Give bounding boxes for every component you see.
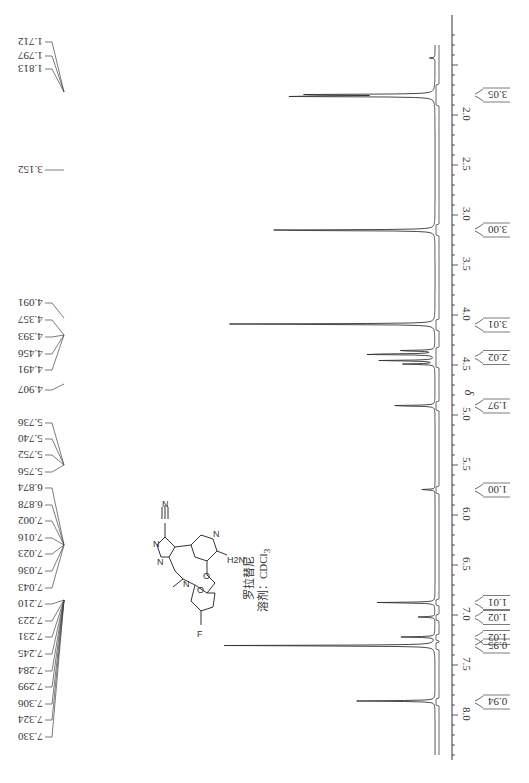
atom-label: N xyxy=(213,529,220,539)
peak-shift-label: 4.907 xyxy=(18,384,43,395)
peak-shift-label: 1.813 xyxy=(18,63,43,74)
integral-value: 3.00 xyxy=(488,224,507,235)
nmr-spectrum-plot: NNNNNOOFH2N xyxy=(0,0,529,783)
integral-bracket xyxy=(475,89,483,101)
peak-shift-label: 3.152 xyxy=(18,164,43,175)
axis-tick-label: 6.5 xyxy=(461,557,472,571)
peak-leader-line xyxy=(45,545,64,554)
atom-label: O xyxy=(197,585,204,595)
peak-leader-line xyxy=(45,545,64,571)
integral-value: 0.95 xyxy=(488,640,507,651)
integral-bracket xyxy=(475,632,483,644)
peak-shift-label: 7.210 xyxy=(18,598,43,609)
integral-value: 0.94 xyxy=(488,696,507,707)
peak-shift-label: 4.491 xyxy=(18,364,43,375)
peak-shift-label: 6.878 xyxy=(18,499,43,510)
peak-leader-line xyxy=(45,303,64,318)
integral-bracket xyxy=(475,640,483,652)
atom-label: O xyxy=(203,571,210,581)
atom-label: F xyxy=(197,629,203,639)
peak-shift-label: 4.091 xyxy=(18,297,43,308)
peak-shift-label: 7.231 xyxy=(18,631,43,642)
axis-tick-label: 2.0 xyxy=(461,107,472,121)
axis-tick-label: 5.5 xyxy=(461,457,472,471)
axis-tick-label: 7.5 xyxy=(461,657,472,671)
peak-shift-label: 6.874 xyxy=(18,482,43,493)
peak-leader-line xyxy=(45,384,64,390)
spectrum-trace xyxy=(224,45,435,755)
peak-leader-line xyxy=(45,335,64,337)
integral-bracket xyxy=(475,400,483,412)
axis-tick-label: 4.5 xyxy=(461,357,472,371)
peak-shift-label: 4.393 xyxy=(18,331,43,342)
peak-shift-label: 5.736 xyxy=(18,417,43,428)
axis-tick-label: 6.0 xyxy=(461,507,472,521)
axis-tick-label: 5.0 xyxy=(461,407,472,421)
integral-value: 1.02 xyxy=(488,612,507,623)
axis-symbol: δ xyxy=(461,390,476,396)
peak-leader-line xyxy=(45,455,64,465)
axis-tick-label: 3.0 xyxy=(461,207,472,221)
integral-value: 2.02 xyxy=(488,352,507,363)
integral-trace xyxy=(436,45,439,755)
integral-bracket xyxy=(475,319,483,331)
peak-shift-label: 4.357 xyxy=(18,314,43,325)
peak-shift-label: 7.016 xyxy=(18,532,43,543)
peak-shift-label: 7.036 xyxy=(18,565,43,576)
integral-value: 3.01 xyxy=(488,319,507,330)
peak-leader-line xyxy=(45,465,64,472)
peak-shift-label: 7.245 xyxy=(18,648,43,659)
atom-label: N xyxy=(153,539,160,549)
peak-shift-label: 7.299 xyxy=(18,681,43,692)
peak-shift-label: 7.002 xyxy=(18,515,43,526)
integral-value: 1.00 xyxy=(488,484,507,495)
axis-tick-label: 3.5 xyxy=(461,257,472,271)
axis-tick-label: 7.0 xyxy=(461,607,472,621)
atom-label: N xyxy=(183,579,190,589)
atom-label: N xyxy=(162,499,169,509)
peak-shift-label: 1.797 xyxy=(18,50,43,61)
axis-tick-label: 8.0 xyxy=(461,707,472,721)
axis-tick-label: 2.5 xyxy=(461,157,472,171)
peak-leader-line xyxy=(45,439,64,465)
peak-shift-label: 7.306 xyxy=(18,698,43,709)
peak-leader-line xyxy=(45,320,64,335)
peak-shift-label: 7.043 xyxy=(18,582,43,593)
peak-shift-label: 5.752 xyxy=(18,449,43,460)
peak-shift-label: 5.756 xyxy=(18,466,43,477)
nmr-spectrum-figure: NNNNNOOFH2N 2.02.53.03.54.04.55.05.56.06… xyxy=(0,0,529,783)
peak-shift-label: 4.456 xyxy=(18,348,43,359)
integral-value: 1.97 xyxy=(488,400,507,411)
integral-bracket xyxy=(475,696,483,708)
peak-shift-label: 5.740 xyxy=(18,433,43,444)
peak-leader-line xyxy=(45,335,64,354)
peak-leader-line xyxy=(45,335,64,370)
peak-shift-label: 7.284 xyxy=(18,665,43,676)
peak-shift-label: 7.330 xyxy=(18,731,43,742)
atom-label: N xyxy=(157,557,164,567)
axis-tick-label: 4.0 xyxy=(461,307,472,321)
integral-bracket xyxy=(475,612,483,624)
peak-shift-label: 7.023 xyxy=(18,548,43,559)
integral-value: 3.05 xyxy=(488,89,507,100)
chemical-structure: NNNNNOOFH2N xyxy=(153,499,245,639)
integral-bracket xyxy=(475,597,483,609)
peak-leader-line xyxy=(45,600,64,604)
integral-bracket xyxy=(475,352,483,364)
integral-bracket xyxy=(475,484,483,496)
peak-shift-label: 7.324 xyxy=(18,714,43,725)
peak-shift-label: 7.223 xyxy=(18,615,43,626)
solvent-label: 溶剂：CDCl3 xyxy=(254,549,272,612)
integral-bracket xyxy=(475,224,483,236)
peak-shift-label: 1.712 xyxy=(18,36,43,47)
integral-value: 1.01 xyxy=(488,597,507,608)
